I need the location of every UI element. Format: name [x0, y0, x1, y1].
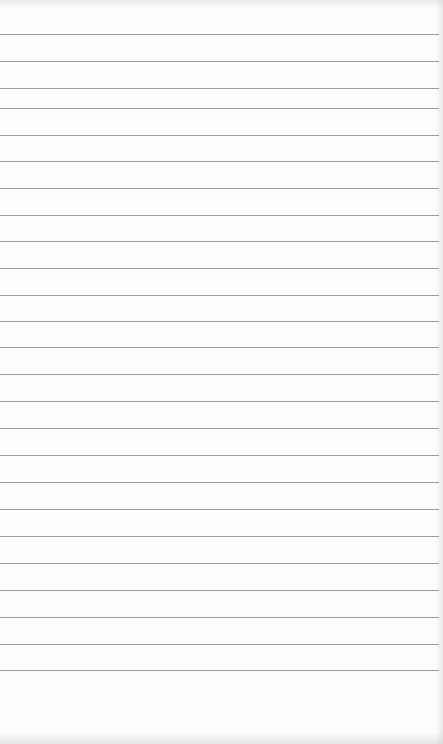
ruled-line [0, 34, 439, 35]
ruled-line [0, 268, 439, 269]
ruled-line [0, 455, 439, 456]
ruled-line [0, 295, 439, 296]
ruled-line [0, 215, 439, 216]
ruled-line [0, 161, 439, 162]
ruled-line [0, 590, 439, 591]
scan-shadow-top [0, 0, 443, 9]
ruled-line [0, 563, 439, 564]
ruled-line [0, 108, 439, 109]
ruled-line [0, 241, 439, 242]
ruled-line [0, 374, 439, 375]
ruled-line [0, 670, 439, 671]
ruled-line [0, 61, 439, 62]
ruled-line [0, 401, 439, 402]
ruled-line [0, 135, 439, 136]
ruled-line [0, 482, 439, 483]
ruled-line [0, 188, 439, 189]
ruled-line [0, 509, 439, 510]
ruled-line [0, 321, 439, 322]
ruled-line [0, 617, 439, 618]
ruled-line [0, 347, 439, 348]
lined-paper-sheet [0, 0, 443, 744]
scan-shadow-bottom [0, 732, 443, 744]
scan-shadow-right [436, 0, 443, 744]
ruled-line [0, 88, 439, 89]
ruled-line [0, 428, 439, 429]
ruled-line [0, 536, 439, 537]
ruled-line [0, 644, 439, 645]
